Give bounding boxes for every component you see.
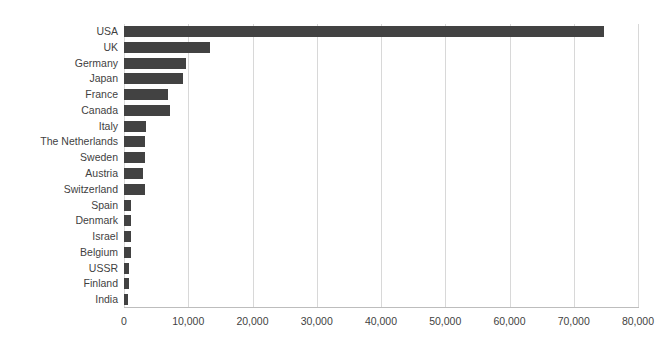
bar-row: [124, 261, 638, 277]
x-tick-label-70000: 70,000: [558, 313, 590, 329]
x-tick-label-80000: 80,000: [622, 313, 654, 329]
bar-usa[interactable]: [124, 26, 604, 37]
bar-uk[interactable]: [124, 42, 210, 53]
category-label-japan: Japan: [0, 71, 118, 87]
bar-row: [124, 182, 638, 198]
bar-israel[interactable]: [124, 231, 131, 242]
category-label-belgium: Belgium: [0, 245, 118, 261]
bar-row: [124, 150, 638, 166]
category-label-the-netherlands: The Netherlands: [0, 134, 118, 150]
bar-row: [124, 213, 638, 229]
bar-france[interactable]: [124, 89, 168, 100]
bar-japan[interactable]: [124, 73, 183, 84]
category-label-usa: USA: [0, 24, 118, 40]
category-label-india: India: [0, 292, 118, 308]
x-tick-label-40000: 40,000: [365, 313, 397, 329]
bar-germany[interactable]: [124, 58, 186, 69]
category-label-ussr: USSR: [0, 261, 118, 277]
category-label-uk: UK: [0, 40, 118, 56]
x-axis-tick-labels: 010,00020,00030,00040,00050,00060,00070,…: [0, 313, 671, 329]
x-tick-label-50000: 50,000: [429, 313, 461, 329]
bar-ussr[interactable]: [124, 263, 129, 274]
bar-austria[interactable]: [124, 168, 143, 179]
bar-finland[interactable]: [124, 278, 129, 289]
gridline-80000: [638, 24, 639, 308]
chart-title: [0, 0, 671, 3]
bar-the-netherlands[interactable]: [124, 136, 145, 147]
bar-row: [124, 24, 638, 40]
bar-italy[interactable]: [124, 121, 146, 132]
bar-chart: USAUKGermanyJapanFranceCanadaItalyThe Ne…: [0, 0, 671, 342]
category-label-finland: Finland: [0, 276, 118, 292]
bar-row: [124, 245, 638, 261]
x-tick-label-0: 0: [121, 313, 127, 329]
bar-row: [124, 134, 638, 150]
bar-row: [124, 276, 638, 292]
category-label-sweden: Sweden: [0, 150, 118, 166]
bar-row: [124, 166, 638, 182]
bar-row: [124, 87, 638, 103]
x-tick-label-60000: 60,000: [493, 313, 525, 329]
bar-row: [124, 119, 638, 135]
bar-canada[interactable]: [124, 105, 170, 116]
category-label-spain: Spain: [0, 198, 118, 214]
category-label-canada: Canada: [0, 103, 118, 119]
x-tick-label-20000: 20,000: [236, 313, 268, 329]
bar-switzerland[interactable]: [124, 184, 145, 195]
category-label-israel: Israel: [0, 229, 118, 245]
category-label-germany: Germany: [0, 56, 118, 72]
x-tick-label-30000: 30,000: [301, 313, 333, 329]
bar-row: [124, 229, 638, 245]
category-label-denmark: Denmark: [0, 213, 118, 229]
bar-row: [124, 292, 638, 308]
plot-area: [124, 24, 638, 308]
bar-row: [124, 40, 638, 56]
bar-sweden[interactable]: [124, 152, 145, 163]
category-label-france: France: [0, 87, 118, 103]
bar-row: [124, 56, 638, 72]
category-label-switzerland: Switzerland: [0, 182, 118, 198]
category-label-italy: Italy: [0, 119, 118, 135]
category-label-austria: Austria: [0, 166, 118, 182]
bar-belgium[interactable]: [124, 247, 131, 258]
category-axis-labels: USAUKGermanyJapanFranceCanadaItalyThe Ne…: [0, 24, 120, 308]
bar-row: [124, 103, 638, 119]
bar-india[interactable]: [124, 294, 128, 305]
bar-spain[interactable]: [124, 200, 131, 211]
x-axis-line: [124, 307, 639, 308]
x-tick-label-10000: 10,000: [172, 313, 204, 329]
bar-row: [124, 198, 638, 214]
bar-row: [124, 71, 638, 87]
bar-denmark[interactable]: [124, 215, 131, 226]
